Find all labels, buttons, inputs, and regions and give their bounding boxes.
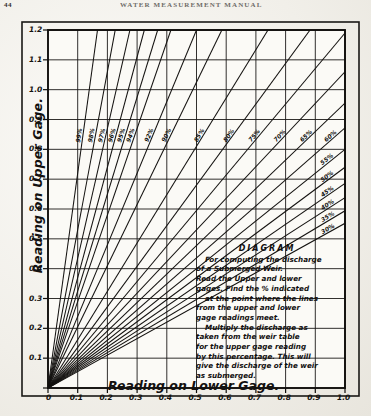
x-tick-label: 0.1 xyxy=(70,393,83,402)
note-line: from the upper and lower xyxy=(196,303,338,313)
note-line: give the discharge of the weir xyxy=(196,361,338,371)
x-tick-label: 0.4 xyxy=(159,393,172,402)
y-tick-label: 1.1 xyxy=(29,55,42,64)
note-line: at the point where the lines xyxy=(196,294,338,304)
running-head: WATER MEASUREMENT MANUAL xyxy=(120,1,262,9)
note-line: gage readings meet. xyxy=(196,313,338,323)
x-tick-label: 0.8 xyxy=(278,393,291,402)
note-line: for the upper gage reading xyxy=(196,342,338,352)
diagram-note-title: DIAGRAM xyxy=(196,244,338,254)
y-tick-label: 1.2 xyxy=(29,25,42,34)
x-tick-label: 0.3 xyxy=(129,393,142,402)
note-line: gages. Find the % indicated xyxy=(196,284,338,294)
y-tick-label: 0.2 xyxy=(29,323,42,332)
note-line: Multiply the discharge as xyxy=(196,323,338,333)
diagram-note: DIAGRAM For computing the dischargeof a … xyxy=(196,244,338,381)
x-tick-label: 0.7 xyxy=(248,393,261,402)
diagram-note-body: For computing the dischargeof a Submerge… xyxy=(196,255,338,381)
y-axis-title: Reading on Upper Gage. xyxy=(30,86,45,286)
note-line: Read the Upper and lower xyxy=(196,274,338,284)
note-line: For computing the discharge xyxy=(196,255,338,265)
note-line: by this percentage. This will xyxy=(196,352,338,362)
figure-submerged-weir-diagram: 00.10.20.30.40.50.60.70.80.91.0 0.10.20.… xyxy=(0,10,371,410)
y-tick-label: 0.3 xyxy=(29,294,42,303)
x-tick-label: 0 xyxy=(46,393,51,402)
x-tick-label: 0.9 xyxy=(307,393,320,402)
y-tick-label: 0.1 xyxy=(29,353,42,362)
x-tick-label: 0.6 xyxy=(218,393,231,402)
x-tick-label: 0.5 xyxy=(189,393,202,402)
scanned-page: 44 WATER MEASUREMENT MANUAL 00.10.20.30.… xyxy=(0,0,371,416)
note-line: as submerged. xyxy=(196,371,338,381)
note-line: of a Submerged Weir. xyxy=(196,264,338,274)
x-tick-label: 1.0 xyxy=(337,393,350,402)
note-line: taken from the weir table xyxy=(196,332,338,342)
x-tick-label: 0.2 xyxy=(99,393,112,402)
page-folio: 44 xyxy=(4,1,12,9)
